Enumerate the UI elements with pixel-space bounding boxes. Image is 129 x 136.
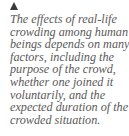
caption-line: The effects of real-life <box>10 13 129 26</box>
triangle-up-icon <box>10 2 18 10</box>
caption-text: The effects of real-life crowding among … <box>10 13 129 126</box>
caption-line: expected duration of the <box>10 101 129 114</box>
caption-line: beings depends on many <box>10 38 129 51</box>
caption-line: crowded situation. <box>10 114 129 127</box>
caption-line: whether one joined it <box>10 76 129 89</box>
